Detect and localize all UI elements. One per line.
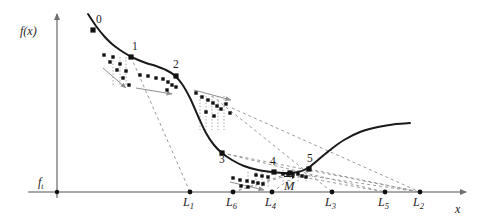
point-label-4: 4 xyxy=(270,156,276,168)
iterate-dot xyxy=(219,107,222,110)
point-label-3: 3 xyxy=(219,154,225,166)
iterate-dot xyxy=(245,179,248,182)
iterate-dot xyxy=(154,76,157,79)
intercept-marker-L1 xyxy=(188,190,193,195)
iterate-dot xyxy=(121,76,124,79)
point-label-1: 1 xyxy=(132,41,138,53)
iterate-dot xyxy=(115,68,118,71)
intercept-letter: L xyxy=(265,195,272,209)
labeled-point-5 xyxy=(306,166,311,171)
point-label-2: 2 xyxy=(173,59,179,71)
intercept-subscript: 4 xyxy=(272,201,276,211)
labeled-point-1 xyxy=(128,54,133,59)
labeled-point-0 xyxy=(90,27,95,32)
intercept-marker-L4 xyxy=(270,190,275,195)
iterate-dot xyxy=(228,111,231,114)
iterate-dot xyxy=(256,181,259,184)
iterate-dot xyxy=(138,73,141,76)
iterate-dot xyxy=(261,182,264,185)
iterate-dot xyxy=(108,60,111,63)
intercept-subscript: 1 xyxy=(190,201,194,211)
intercept-label-L5: L5 xyxy=(378,196,389,211)
iterate-dots-group xyxy=(102,53,307,188)
threshold-subscript: t xyxy=(41,182,43,191)
iterate-dot xyxy=(260,174,263,177)
iterate-dot xyxy=(118,62,121,65)
intercept-marker-L2 xyxy=(418,190,423,195)
intercept-label-L6: L6 xyxy=(226,196,237,211)
threshold-label: ft xyxy=(38,176,44,191)
intercept-label-L4: L4 xyxy=(265,196,276,211)
axes-group xyxy=(28,14,466,198)
iterate-dot xyxy=(204,110,207,113)
intercept-subscript: 5 xyxy=(385,201,389,211)
labeled-point-markers xyxy=(90,27,311,175)
iterate-dot xyxy=(224,102,227,105)
intercept-letter: L xyxy=(226,195,233,209)
function-curve xyxy=(88,14,410,173)
objective-function-curve xyxy=(88,14,410,173)
iterate-dot xyxy=(206,98,209,101)
iterate-dot xyxy=(254,173,257,176)
iteration-direction-arrow xyxy=(194,90,231,100)
x-axis-label: x xyxy=(455,203,460,215)
y-axis-label: f(x) xyxy=(20,25,37,37)
iterate-dot xyxy=(127,83,130,86)
iterate-dot xyxy=(239,184,242,187)
intercept-letter: L xyxy=(325,195,332,209)
iterate-dot xyxy=(165,88,168,91)
intercept-label-L3: L3 xyxy=(325,196,336,211)
diagram-svg xyxy=(0,0,479,223)
point-label-5: 5 xyxy=(307,153,313,165)
intercept-label-L2: L2 xyxy=(413,196,424,211)
iterate-dot xyxy=(111,55,114,58)
iterate-dot xyxy=(146,74,149,77)
iterate-dot xyxy=(161,77,164,80)
intercept-letter: L xyxy=(183,195,190,209)
figure-canvas: f(x) ft x 012345M L1L6L4L3L5L2 xyxy=(0,0,479,223)
vector-arrow-overbar xyxy=(284,176,294,181)
iterate-dot xyxy=(251,180,254,183)
point-label-0: 0 xyxy=(96,14,102,26)
iterate-dot xyxy=(266,175,269,178)
iterate-dot xyxy=(238,178,241,181)
labeled-point-4 xyxy=(271,169,276,174)
iterate-dot xyxy=(170,83,173,86)
iterate-dot xyxy=(174,85,177,88)
secant-line xyxy=(290,173,420,192)
iterate-dot xyxy=(296,172,299,175)
droplines-group xyxy=(113,57,306,188)
origin-marker xyxy=(55,190,59,194)
iterate-dot xyxy=(166,80,169,83)
iterate-dot xyxy=(124,69,127,72)
iterate-dot xyxy=(215,104,218,107)
intercept-letter: L xyxy=(413,195,420,209)
secant-line xyxy=(212,96,332,192)
intercept-marker-L3 xyxy=(330,190,335,195)
iterate-dot xyxy=(246,185,249,188)
intercept-marker-L5 xyxy=(383,190,388,195)
secant-line xyxy=(232,108,420,192)
point-label-M-text: M xyxy=(284,179,294,193)
point-label-M: M xyxy=(284,176,294,193)
iterate-dot xyxy=(300,174,303,177)
iterate-dot xyxy=(194,91,197,94)
iterate-dot xyxy=(211,101,214,104)
intercept-subscript: 2 xyxy=(420,201,424,211)
secant-line xyxy=(131,57,190,192)
iterate-dot xyxy=(231,176,234,179)
intercept-label-L1: L1 xyxy=(183,196,194,211)
intercept-letter: L xyxy=(378,195,385,209)
intercept-subscript: 6 xyxy=(233,201,237,211)
iterate-dot xyxy=(212,114,215,117)
iterate-dot xyxy=(304,175,307,178)
iterate-dot xyxy=(200,95,203,98)
intercept-marker-L6 xyxy=(231,190,236,195)
labeled-point-2 xyxy=(173,73,178,78)
iterate-dot xyxy=(102,53,105,56)
intercept-subscript: 3 xyxy=(332,201,336,211)
